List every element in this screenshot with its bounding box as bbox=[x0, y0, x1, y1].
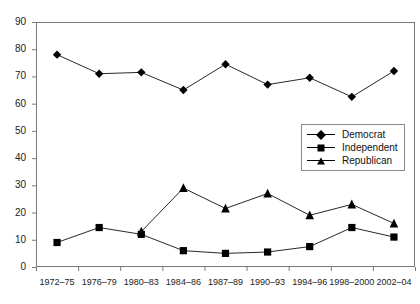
series-point-independent bbox=[96, 224, 103, 231]
y-axis-tick-label: 30 bbox=[4, 180, 26, 190]
series-point-democrat bbox=[306, 74, 314, 82]
series-point-republican bbox=[390, 219, 399, 228]
series-point-independent bbox=[306, 243, 313, 250]
series-point-democrat bbox=[348, 93, 356, 101]
legend-label: Democrat bbox=[342, 129, 385, 140]
series-point-independent bbox=[180, 247, 187, 254]
y-axis-tick-label: 10 bbox=[4, 235, 26, 245]
y-axis-tick-label: 80 bbox=[4, 44, 26, 54]
series-point-independent bbox=[264, 248, 271, 255]
series-point-democrat bbox=[263, 80, 271, 88]
series-point-democrat bbox=[137, 68, 145, 76]
y-axis-tick-label: 60 bbox=[4, 99, 26, 109]
y-axis-tick-label: 70 bbox=[4, 71, 26, 81]
legend-item-republican[interactable]: Republican bbox=[306, 154, 398, 167]
series-point-republican bbox=[348, 200, 357, 209]
y-axis-tick-label: 40 bbox=[4, 153, 26, 163]
series-point-democrat bbox=[53, 50, 61, 58]
series-point-democrat bbox=[221, 60, 229, 68]
series-point-independent bbox=[222, 250, 229, 257]
legend-marker-triangle-icon bbox=[306, 154, 336, 167]
series-point-democrat bbox=[179, 86, 187, 94]
series-point-republican bbox=[221, 204, 230, 213]
legend-label: Independent bbox=[342, 142, 398, 153]
series-point-independent bbox=[390, 233, 397, 240]
series-point-democrat bbox=[390, 67, 398, 75]
y-axis-tick-label: 50 bbox=[4, 126, 26, 136]
legend-item-independent[interactable]: Independent bbox=[306, 141, 398, 154]
x-axis-tick-label: 2002–04 bbox=[366, 277, 420, 287]
legend-label: Republican bbox=[342, 155, 392, 166]
legend-item-democrat[interactable]: Democrat bbox=[306, 128, 398, 141]
series-point-democrat bbox=[95, 70, 103, 78]
series-line-independent bbox=[57, 228, 394, 254]
legend-marker-diamond-icon bbox=[306, 128, 336, 141]
series-point-republican bbox=[263, 189, 272, 198]
line-chart: 0102030405060708090 1972–751976–791980–8… bbox=[0, 0, 420, 304]
series-point-independent bbox=[53, 239, 60, 246]
series-point-independent bbox=[348, 224, 355, 231]
series-point-republican bbox=[179, 183, 188, 192]
y-axis-tick-label: 20 bbox=[4, 208, 26, 218]
legend-marker-square-icon bbox=[306, 141, 336, 154]
chart-legend: DemocratIndependentRepublican bbox=[301, 124, 405, 171]
y-axis-tick-label: 0 bbox=[4, 262, 26, 272]
y-axis-tick-label: 90 bbox=[4, 17, 26, 27]
